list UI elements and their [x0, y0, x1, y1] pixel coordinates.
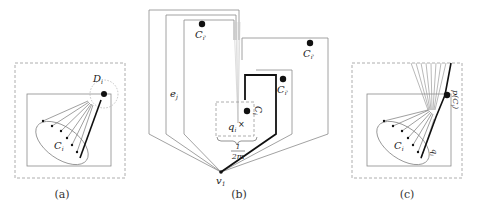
outer-dashed-box [352, 63, 462, 178]
disk-center-dot [101, 91, 107, 97]
label-q: qi [228, 121, 236, 133]
panel-c: Ci qi p(Ci) (c) [352, 63, 462, 201]
panel-a: Di Ci (a) [15, 63, 125, 201]
label-c-right: Ci' [303, 48, 315, 60]
region-left-3 [184, 20, 234, 172]
cluster-dot-right [307, 40, 313, 46]
region-outer-left [149, 10, 239, 172]
cluster-dot-center [244, 108, 250, 114]
bold-ray [80, 100, 101, 158]
label-cluster: Ci [394, 140, 404, 152]
label-v1: v1 [216, 175, 225, 187]
vertex-v1 [219, 170, 223, 174]
label-frac-num: 1 [236, 143, 240, 151]
label-c-inner: Ci' [277, 84, 289, 96]
label-disk: Di [92, 73, 103, 85]
inner-box [367, 94, 451, 166]
cluster-dot-inner [280, 76, 286, 82]
projection-dot [444, 92, 450, 98]
label-frac-den: 2m [231, 152, 245, 161]
cluster-dot-top [199, 21, 205, 27]
inner-box [27, 94, 111, 166]
label-edge: ej [170, 88, 178, 101]
upward-rays [411, 63, 446, 110]
panel-b-dots [199, 21, 313, 174]
label-c-center: Ci [252, 106, 263, 115]
caption-b: (b) [231, 188, 247, 201]
caption-c: (c) [400, 188, 415, 201]
label-c-top: Ci' [195, 29, 207, 41]
figure-canvas: Di Ci (a) Ci' Ci' Ci' Ci ej [0, 0, 478, 215]
caption-a: (a) [54, 188, 69, 201]
outer-dashed-box [15, 63, 125, 178]
q-marker: × [238, 120, 245, 129]
label-projection: p(Ci) [450, 90, 460, 109]
label-q: qi [429, 149, 439, 156]
label-cluster: Ci [54, 140, 64, 152]
